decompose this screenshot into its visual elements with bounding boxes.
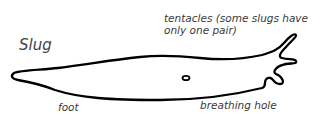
label-breathing-hole: breathing hole [200, 99, 277, 111]
label-tentacles-line1: tentacles (some slugs have [164, 12, 308, 24]
breathing-hole-mark [183, 76, 190, 80]
label-tentacles: tentacles (some slugs have only one pair… [164, 12, 308, 36]
slug-outline [12, 34, 296, 100]
diagram-title: Slug [19, 37, 52, 54]
label-foot: foot [58, 101, 79, 113]
label-tentacles-line2: only one pair) [164, 24, 308, 36]
